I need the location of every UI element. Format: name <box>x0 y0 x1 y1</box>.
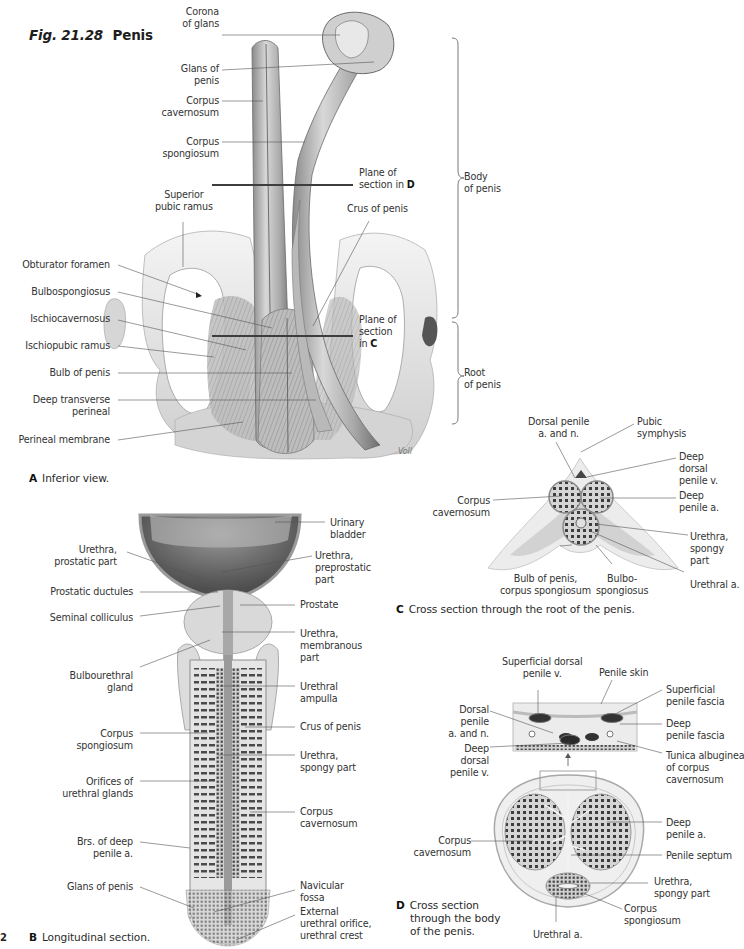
label-line: Urethra, <box>654 876 710 888</box>
label-urethra-membranous-part: Urethra, membranous part <box>300 628 362 663</box>
label-urinary-bladder: Urinary bladder <box>330 517 366 541</box>
label-line: a. and n. <box>448 728 489 740</box>
label-brs-of-deep-penile-a: Brs. of deep penile a. <box>77 836 133 860</box>
label-line: prostatic part <box>54 556 117 568</box>
label-line: spongiosum <box>76 740 133 752</box>
label-corpus-spongiosum-a: Corpus spongiosum <box>162 136 219 160</box>
label-line: penile <box>448 716 489 728</box>
caption-text: Cross section <box>410 899 479 911</box>
label-external-urethral-orifice: External urethral orifice, urethral cres… <box>300 906 371 941</box>
label-line: dorsal <box>679 463 718 475</box>
label-ischiopubic-ramus: Ischiopubic ramus <box>25 340 110 352</box>
label-line: dorsal <box>450 755 489 767</box>
label-crus-of-penis-a: Crus of penis <box>347 203 408 215</box>
label-urethra-spongy-part-b: Urethra, spongy part <box>300 750 356 774</box>
label-line: section <box>359 326 396 338</box>
label-line: Orifices of <box>62 776 133 788</box>
label-root-of-penis: Root of penis <box>464 367 501 391</box>
label-line: Superficial <box>666 684 724 696</box>
label-corpus-cavernosum-d: Corpus cavernosum <box>414 835 471 859</box>
label-line: penile a. <box>666 829 706 841</box>
label-deep-penile-a-d: Deep penile a. <box>666 817 706 841</box>
label-line: in <box>359 338 367 349</box>
label-bulbourethral-gland: Bulbourethral gland <box>70 670 133 694</box>
label-line: cavernosum <box>414 847 471 859</box>
label-bulbospongiosus-c: Bulbo- spongiosus <box>596 573 648 597</box>
label-line: of corpus <box>666 762 744 774</box>
page-number: 2 <box>0 932 7 943</box>
label-urethral-a-d: Urethral a. <box>533 929 582 941</box>
label-prostatic-ductules: Prostatic ductules <box>50 586 133 598</box>
label-line: section in <box>359 179 404 190</box>
label-line: Deep <box>450 743 489 755</box>
label-line: Glans of <box>181 63 219 75</box>
label-urethral-ampulla: Urethral ampulla <box>300 681 338 705</box>
label-line: Tunica albuginea <box>666 750 744 762</box>
label-line: part <box>300 652 362 664</box>
label-line: Corpus <box>414 835 471 847</box>
label-line: Bulbourethral <box>70 670 133 682</box>
label-glans-of-penis: Glans of penis <box>181 63 219 87</box>
label-line: Urethra, <box>300 750 356 762</box>
label-line: part <box>690 555 728 567</box>
label-line: Urethra, <box>300 628 362 640</box>
label-line: Corpus <box>300 806 357 818</box>
section-ref-d: D <box>407 179 415 190</box>
label-urethra-prostatic-part: Urethra, prostatic part <box>54 544 117 568</box>
label-line: cavernosum <box>300 818 357 830</box>
label-corpus-spongiosum-b: Corpus spongiosum <box>76 728 133 752</box>
label-crus-of-penis-b: Crus of penis <box>300 721 361 733</box>
section-ref-c: C <box>370 338 377 349</box>
label-line: of glans <box>182 18 219 30</box>
label-corpus-cavernosum-a: Corpus cavernosum <box>162 95 219 119</box>
panel-a-illustration <box>104 12 464 459</box>
label-line: Plane of <box>359 167 415 179</box>
label-line: External <box>300 906 371 918</box>
label-line: Body <box>464 171 501 183</box>
label-line: Corpus <box>433 495 490 507</box>
label-bulb-of-penis: Bulb of penis <box>49 367 110 379</box>
label-line: cavernosum <box>433 507 490 519</box>
label-superficial-dorsal-penile-v: Superficial dorsal penile v. <box>502 656 582 680</box>
label-obturator-foramen: Obturator foramen <box>22 259 110 271</box>
label-body-of-penis: Body of penis <box>464 171 501 195</box>
caption-panel-d: DCross section through the body of the p… <box>396 899 500 938</box>
label-line: spongy <box>690 543 728 555</box>
label-line: urethral orifice, <box>300 918 371 930</box>
caption-text: of the penis. <box>396 925 500 938</box>
label-corpus-cavernosum-b: Corpus cavernosum <box>300 806 357 830</box>
label-superior-pubic-ramus: Superior pubic ramus <box>155 189 213 213</box>
label-line: fossa <box>300 892 344 904</box>
label-line: Plane of <box>359 314 396 326</box>
label-line: membranous <box>300 640 362 652</box>
label-line: Dorsal <box>448 704 489 716</box>
label-orifices-of-urethral-glands: Orifices of urethral glands <box>62 776 133 800</box>
caption-text: Longitudinal section. <box>42 931 150 943</box>
caption-text: Inferior view. <box>42 472 109 484</box>
label-line: Brs. of deep <box>77 836 133 848</box>
label-penile-skin: Penile skin <box>599 667 648 679</box>
label-line: Navicular <box>300 880 344 892</box>
label-line: Bulb of penis, <box>500 573 591 585</box>
label-line: penile a. <box>679 502 719 514</box>
panel-letter-b: B <box>29 931 37 943</box>
label-pubic-symphysis: Pubic symphysis <box>637 416 686 440</box>
label-ischiocavernosus: Ischiocavernosus <box>30 313 110 325</box>
label-line: Deep <box>679 490 719 502</box>
label-line: Corpus <box>624 903 681 915</box>
label-corpus-spongiosum-d: Corpus spongiosum <box>624 903 681 927</box>
label-urethra-spongy-part-d: Urethra, spongy part <box>654 876 710 900</box>
label-prostate: Prostate <box>300 599 338 611</box>
label-line: spongy part <box>654 888 710 900</box>
label-perineal-membrane: Perineal membrane <box>19 434 110 446</box>
label-line: Urinary <box>330 517 366 529</box>
caption-panel-b: BLongitudinal section. <box>29 931 150 944</box>
label-line: Pubic <box>637 416 686 428</box>
label-line: of penis <box>464 183 501 195</box>
label-line: Bulbo- <box>596 573 648 585</box>
caption-text: through the body <box>396 912 500 925</box>
label-line: gland <box>70 682 133 694</box>
label-line: of penis <box>464 379 501 391</box>
label-glans-of-penis-b: Glans of penis <box>67 881 133 893</box>
